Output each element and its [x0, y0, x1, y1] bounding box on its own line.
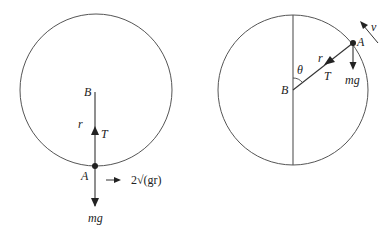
left-tension-arrowhead-icon — [91, 126, 99, 135]
right-label-mg: mg — [345, 73, 360, 87]
left-velocity-arrowhead-icon — [114, 177, 121, 183]
right-diagram: v A θ r T mg B — [218, 15, 378, 165]
left-particle-A — [92, 163, 98, 169]
right-velocity-arrowhead-icon — [360, 21, 368, 29]
right-label-T: T — [324, 69, 332, 83]
right-weight-arrowhead-icon — [350, 62, 357, 70]
left-label-mg: mg — [88, 211, 103, 225]
physics-diagram: B r T A 2√(gr) mg v A θ r T mg B — [0, 0, 392, 236]
right-theta-arc — [293, 78, 303, 83]
left-label-B: B — [84, 85, 92, 99]
left-label-T: T — [101, 127, 109, 141]
right-label-theta: θ — [297, 63, 303, 77]
left-circle — [20, 14, 172, 166]
left-label-velocity: 2√(gr) — [131, 173, 162, 187]
right-particle-A — [350, 40, 356, 46]
left-label-A: A — [80, 169, 89, 183]
left-label-r: r — [78, 117, 83, 131]
left-weight-arrowhead-icon — [91, 198, 99, 207]
right-label-A: A — [356, 35, 365, 49]
right-label-r: r — [318, 51, 323, 65]
right-label-v: v — [371, 20, 377, 34]
right-tension-arrowhead-icon — [324, 56, 335, 65]
right-label-B: B — [281, 83, 289, 97]
left-diagram: B r T A 2√(gr) mg — [20, 14, 172, 225]
